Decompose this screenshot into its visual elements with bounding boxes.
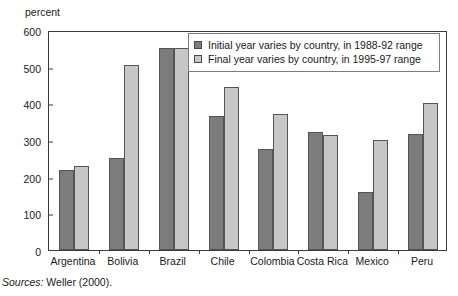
bar <box>323 135 338 250</box>
x-axis-label-colombia: Colombia <box>250 255 294 267</box>
legend-swatch-icon <box>194 55 202 63</box>
bar <box>258 149 273 250</box>
source-label: Sources: <box>2 276 43 288</box>
x-tick-mark <box>199 250 200 254</box>
x-tick-mark <box>398 250 399 254</box>
bar <box>423 103 438 250</box>
bar-group <box>159 32 189 250</box>
bar <box>373 140 388 250</box>
x-axis-label-argentina: Argentina <box>50 255 95 267</box>
legend-swatch-icon <box>194 41 202 49</box>
x-axis-label-brazil: Brazil <box>160 255 186 267</box>
bar <box>273 114 288 250</box>
x-axis-label-chile: Chile <box>211 255 235 267</box>
bar <box>124 65 139 250</box>
legend-item-label: Final year varies by country, in 1995-97… <box>208 53 421 65</box>
x-axis-label-bolivia: Bolivia <box>107 255 138 267</box>
source-note: Sources: Weller (2000). <box>2 276 112 288</box>
x-tick-mark <box>149 250 150 254</box>
bar <box>358 192 373 250</box>
legend-item-label: Initial year varies by country, in 1988-… <box>208 39 423 51</box>
y-tick-label-600: 600 <box>0 27 49 38</box>
chart-legend: Initial year varies by country, in 1988-… <box>188 33 440 72</box>
y-tick-label-100: 100 <box>0 210 49 221</box>
bar <box>224 87 239 250</box>
x-axis-label-costa-rica: Costa Rica <box>297 255 348 267</box>
bar <box>209 116 224 250</box>
x-tick-mark <box>348 250 349 254</box>
bar <box>408 134 423 250</box>
bar <box>59 170 74 250</box>
y-axis-title: percent <box>25 6 60 18</box>
legend-item: Final year varies by country, in 1995-97… <box>194 52 434 66</box>
x-tick-mark <box>298 250 299 254</box>
y-tick-label-0: 0 <box>0 247 49 258</box>
x-axis-label-mexico: Mexico <box>356 255 389 267</box>
y-tick-label-500: 500 <box>0 63 49 74</box>
x-tick-mark <box>99 250 100 254</box>
source-text: Weller (2000). <box>43 276 112 288</box>
x-tick-mark <box>249 250 250 254</box>
y-tick-label-400: 400 <box>0 100 49 111</box>
bar <box>109 158 124 250</box>
x-axis-label-peru: Peru <box>411 255 433 267</box>
legend-item: Initial year varies by country, in 1988-… <box>194 38 434 52</box>
bar <box>159 48 174 250</box>
y-tick-label-300: 300 <box>0 137 49 148</box>
bar <box>308 132 323 250</box>
bar-chart-figure: percent 0100200300400500600 ArgentinaBol… <box>0 0 458 296</box>
bar-group <box>59 32 89 250</box>
bar <box>74 166 89 250</box>
y-tick-label-200: 200 <box>0 173 49 184</box>
bar <box>174 48 189 250</box>
bar-group <box>109 32 139 250</box>
